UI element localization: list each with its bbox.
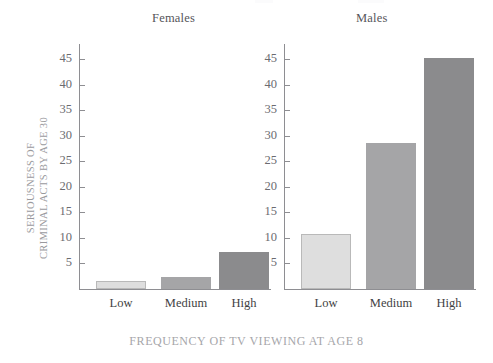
bar-high (424, 58, 474, 289)
x-axis-category-label: Medium (161, 296, 211, 311)
y-axis-tick-label: 30 (60, 128, 73, 143)
y-axis-tick-label: 20 (265, 179, 278, 194)
bar-low (96, 281, 146, 289)
y-axis-tick-mark (80, 161, 85, 162)
y-axis-tick-label: 40 (60, 77, 73, 92)
x-axis-line-females (79, 289, 271, 290)
y-axis-tick-label: 10 (265, 230, 278, 245)
y-axis-tick-label: 5 (66, 255, 72, 270)
y-axis-tick-mark (285, 59, 290, 60)
y-axis-tick-mark (285, 187, 290, 188)
y-axis-tick-mark (80, 238, 85, 239)
bar-medium (161, 277, 211, 289)
y-axis-tick-label: 45 (60, 51, 73, 66)
bar-medium (366, 143, 416, 289)
y-axis-tick-mark (285, 161, 290, 162)
y-axis-tick-mark (80, 212, 85, 213)
bar-high (219, 252, 269, 289)
y-axis-tick-label: 20 (60, 179, 73, 194)
x-axis-category-label: High (424, 296, 474, 311)
y-axis-line-males (284, 44, 285, 290)
plot-panel-males: 45403530252015105 LowMediumHigh (284, 44, 476, 290)
y-axis-tick-mark (285, 238, 290, 239)
y-axis-tick-mark (285, 136, 290, 137)
y-axis-tick-label: 15 (265, 204, 278, 219)
bar-low (301, 234, 351, 289)
x-axis-title: FREQUENCY OF TV VIEWING AT AGE 8 (0, 334, 493, 349)
y-axis-tick-mark (285, 263, 290, 264)
y-axis-title-line1: SERIOUSNESS OF (24, 83, 37, 293)
top-edge-artifact (358, 0, 384, 3)
y-axis-tick-label: 15 (60, 204, 73, 219)
y-axis-title-line2: CRIMINAL ACTS BY AGE 30 (37, 83, 50, 293)
y-axis-tick-label: 35 (60, 102, 73, 117)
x-axis-category-label: High (219, 296, 269, 311)
y-axis-tick-label: 25 (60, 153, 73, 168)
y-axis-tick-mark (285, 85, 290, 86)
y-axis-tick-label: 45 (265, 51, 278, 66)
plot-panel-females: 45403530252015105 LowMediumHigh (79, 44, 271, 290)
y-axis-tick-mark (80, 136, 85, 137)
y-axis-tick-label: 30 (265, 128, 278, 143)
panel-title-females: Females (152, 11, 195, 26)
y-axis-tick-mark (80, 187, 85, 188)
y-axis-tick-label: 10 (60, 230, 73, 245)
y-axis-tick-label: 40 (265, 77, 278, 92)
y-axis-tick-mark (80, 59, 85, 60)
y-axis-line-females (79, 44, 80, 290)
y-axis-tick-mark (80, 85, 85, 86)
chart-figure: Females Males SERIOUSNESS OF CRIMINAL AC… (0, 0, 493, 363)
y-axis-tick-label: 35 (265, 102, 278, 117)
y-axis-tick-mark (285, 110, 290, 111)
y-axis-tick-label: 25 (265, 153, 278, 168)
panel-title-males: Males (356, 11, 388, 26)
y-axis-tick-label: 5 (271, 255, 277, 270)
y-axis-title: SERIOUSNESS OF CRIMINAL ACTS BY AGE 30 (24, 83, 50, 293)
top-edge-artifact (255, 0, 273, 3)
x-axis-category-label: Medium (366, 296, 416, 311)
x-axis-category-label: Low (96, 296, 146, 311)
y-axis-tick-mark (285, 212, 290, 213)
y-axis-tick-mark (80, 263, 85, 264)
y-axis-tick-mark (80, 110, 85, 111)
x-axis-line-males (284, 289, 476, 290)
x-axis-category-label: Low (301, 296, 351, 311)
